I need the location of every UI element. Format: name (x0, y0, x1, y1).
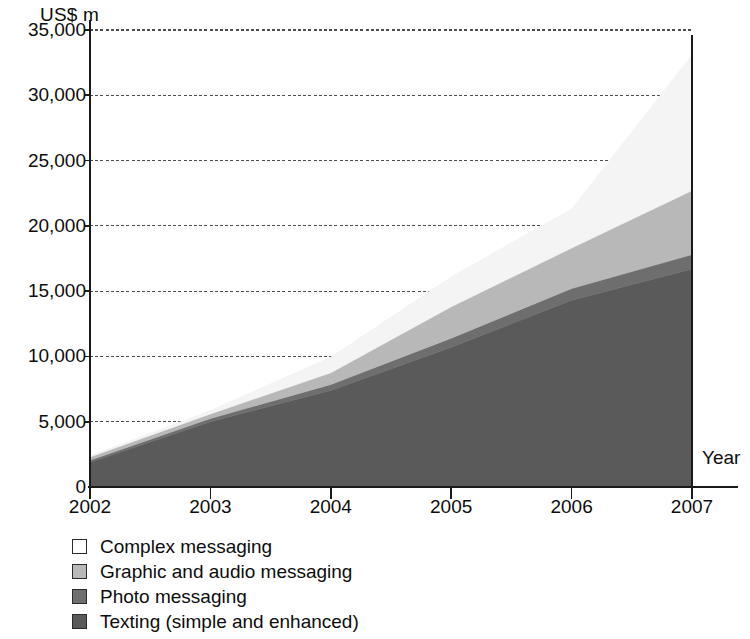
legend-item: Texting (simple and enhanced) (72, 609, 632, 634)
legend-item-label: Graphic and audio messaging (100, 562, 352, 581)
legend-swatch-icon (72, 539, 87, 554)
legend-swatch-icon (72, 589, 87, 604)
legend-swatch-icon (72, 564, 87, 579)
legend-item: Graphic and audio messaging (72, 559, 632, 584)
stacked-areas (90, 55, 692, 487)
legend-item: Complex messaging (72, 534, 632, 559)
area-series (90, 269, 692, 487)
legend-item-label: Complex messaging (100, 537, 272, 556)
legend-item-label: Photo messaging (100, 587, 247, 606)
chart-legend: Complex messagingGraphic and audio messa… (72, 534, 632, 634)
legend-item-label: Texting (simple and enhanced) (100, 612, 359, 631)
legend-item: Photo messaging (72, 584, 632, 609)
chart-figure: US$ m Year 05,00010,00015,00020,00025,00… (0, 0, 750, 639)
legend-swatch-icon (72, 614, 87, 629)
